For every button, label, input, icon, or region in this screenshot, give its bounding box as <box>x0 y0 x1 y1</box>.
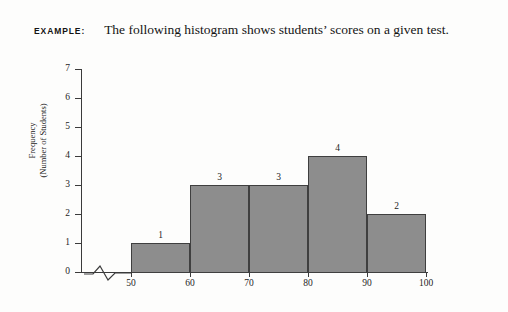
bar-value-label: 2 <box>367 201 426 211</box>
x-tick-label-80: 80 <box>295 278 321 289</box>
y-tick-label-2: 2 <box>56 209 70 219</box>
y-tick-label-0: 0 <box>56 267 70 277</box>
x-tick-100 <box>426 272 427 277</box>
x-tick-50 <box>131 272 132 277</box>
bar-value-label: 3 <box>190 172 249 182</box>
x-tick-label-70: 70 <box>236 278 262 289</box>
y-tick-7 <box>75 69 81 70</box>
x-tick-label-60: 60 <box>177 278 203 289</box>
histogram-bar <box>367 214 426 273</box>
y-axis-title-line2: (Number of Students) <box>37 86 48 196</box>
bar-value-label: 1 <box>131 230 190 240</box>
x-tick-70 <box>249 272 250 277</box>
x-tick-label-90: 90 <box>354 278 380 289</box>
y-tick-1 <box>75 243 81 244</box>
y-tick-label-6: 6 <box>56 93 70 103</box>
y-tick-0 <box>75 272 81 273</box>
histogram-bar <box>131 243 190 273</box>
y-tick-label-5: 5 <box>56 122 70 132</box>
y-tick-label-7: 7 <box>56 64 70 74</box>
figure-page: EXAMPLE: The following histogram shows s… <box>0 0 508 312</box>
y-tick-5 <box>75 127 81 128</box>
histogram-bar <box>190 185 249 273</box>
x-tick-90 <box>367 272 368 277</box>
y-tick-3 <box>75 185 81 186</box>
x-tick-80 <box>308 272 309 277</box>
y-tick-label-4: 4 <box>56 151 70 161</box>
y-axis-line <box>81 69 82 273</box>
histogram-bar <box>308 156 367 273</box>
histogram-bar <box>249 185 308 273</box>
bar-value-label: 4 <box>308 143 367 153</box>
y-tick-label-3: 3 <box>56 180 70 190</box>
y-tick-4 <box>75 156 81 157</box>
y-tick-label-1: 1 <box>56 238 70 248</box>
y-tick-2 <box>75 214 81 215</box>
x-tick-label-50: 50 <box>118 278 144 289</box>
histogram-figure: Frequency (Number of Students) 0 1 2 3 4… <box>0 0 508 312</box>
x-tick-label-100: 100 <box>413 278 439 289</box>
y-axis-title-line1: Frequency <box>27 123 37 159</box>
y-tick-6 <box>75 98 81 99</box>
x-tick-60 <box>190 272 191 277</box>
bar-value-label: 3 <box>249 172 308 182</box>
y-axis-title: Frequency (Number of Students) <box>27 86 48 196</box>
